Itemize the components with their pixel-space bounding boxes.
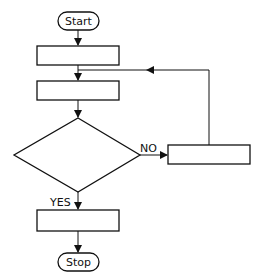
start-terminator: Start: [58, 12, 99, 30]
start-label: Start: [65, 15, 93, 28]
decision-diamond: [14, 118, 140, 192]
process-box-no: [168, 145, 250, 164]
stop-label: Stop: [66, 256, 91, 269]
feedback-arrowhead-icon: [146, 66, 154, 74]
process-box-yes: [37, 210, 119, 231]
no-label: NO: [140, 142, 157, 155]
yes-label: YES: [49, 196, 71, 209]
flowchart-canvas: Start NO YES Stop: [0, 0, 266, 275]
stop-terminator: Stop: [58, 253, 99, 271]
process-box-2: [37, 81, 119, 100]
process-box-1: [37, 46, 119, 65]
